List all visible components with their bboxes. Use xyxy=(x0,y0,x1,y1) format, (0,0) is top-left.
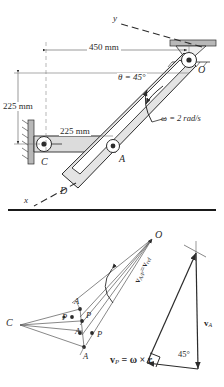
velocity-label-P-2: P xyxy=(62,313,67,322)
velocity-label-P-3: P xyxy=(97,330,102,339)
v-a-label: vA xyxy=(204,319,212,329)
pivot-O xyxy=(182,53,197,68)
point-label-D: D xyxy=(60,186,67,196)
omega-label: ω = 2 rad/s xyxy=(161,114,201,123)
velocity-label-A-2: A xyxy=(75,327,80,336)
velocity-triangle xyxy=(147,241,206,369)
axis-label-x: x xyxy=(24,196,28,205)
point-label-O: O xyxy=(198,65,205,75)
theta-label: θ = 45° xyxy=(117,73,147,82)
dimension-label-225-vertical: 225 mm xyxy=(2,102,34,111)
dimension-label-225-arm: 225 mm xyxy=(59,127,91,136)
point-label-A: A xyxy=(119,154,125,164)
dimension-label-450: 450 mm xyxy=(87,43,121,52)
velocity-label-P-1: P xyxy=(86,311,91,320)
vp-sub: P xyxy=(115,358,119,365)
rotation-arc xyxy=(105,269,113,303)
axis-y xyxy=(121,24,202,47)
point-label-C: C xyxy=(41,157,48,167)
angle-45-label: 45° xyxy=(178,350,190,359)
axis-x xyxy=(34,183,76,206)
ray-fan-O xyxy=(72,239,152,345)
v-a-sub: A xyxy=(209,322,213,328)
pin-A xyxy=(107,140,120,153)
wall-support xyxy=(22,120,34,164)
velocity-point-label-O: O xyxy=(155,230,162,240)
vp-equation: vP = ω × r xyxy=(110,355,152,366)
velocity-label-A-1: A xyxy=(74,297,79,306)
panel-divider xyxy=(8,209,216,211)
vp-equation-rest: = ω × r xyxy=(122,354,153,365)
kinematics-figure: y x 450 mm 225 mm 225 mm θ = 45° ω = 2 r… xyxy=(0,0,224,387)
velocity-label-A-3: A xyxy=(83,352,88,361)
velocity-point-label-C: C xyxy=(6,318,13,328)
axis-label-y: y xyxy=(113,14,117,23)
